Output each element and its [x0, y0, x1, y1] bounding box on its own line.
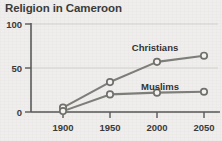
series-label-christians: Christians	[132, 42, 178, 53]
data-point-muslims-1900	[60, 108, 66, 114]
chart-plot-area: 100 50 0 1900 1950 2000 2050 Christians …	[0, 0, 222, 141]
data-point-muslims-2050	[201, 89, 207, 95]
series-line-muslims	[63, 92, 204, 111]
x-axis-label-1950: 1950	[99, 122, 120, 133]
y-axis-label-0: 0	[17, 107, 22, 118]
chart-container: Religion in Cameroon 100 50 0 1900 1950 …	[0, 0, 222, 141]
data-point-christians-2000	[154, 59, 160, 65]
data-point-christians-1950	[107, 79, 113, 85]
series-label-muslims: Muslims	[141, 81, 179, 92]
y-axis-label-100: 100	[6, 19, 22, 30]
y-axis-label-50: 50	[11, 63, 22, 74]
x-axis-label-1900: 1900	[52, 122, 73, 133]
series-layer	[60, 52, 207, 114]
data-point-christians-2050	[201, 52, 207, 58]
data-point-muslims-1950	[107, 91, 113, 97]
x-axis-label-2000: 2000	[146, 122, 167, 133]
series-line-christians	[63, 56, 204, 108]
x-axis-label-2050: 2050	[193, 122, 214, 133]
